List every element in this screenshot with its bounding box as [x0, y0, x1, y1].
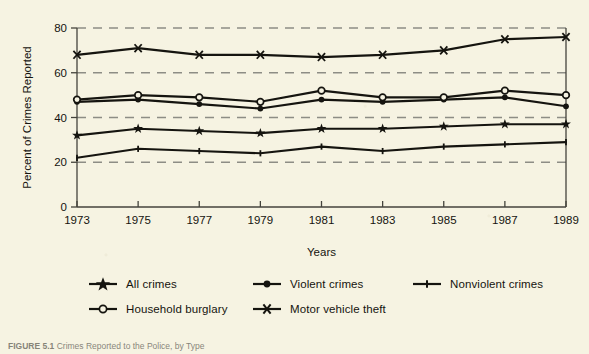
- figure-caption-label: FIGURE 5.1: [8, 341, 54, 351]
- x-axis-title: Years: [307, 246, 336, 258]
- figure-page: 197319751977197919811983198519871989 020…: [0, 0, 589, 354]
- open-circle-marker: [135, 92, 142, 99]
- filled-circle-marker: [196, 101, 202, 107]
- figure-caption: FIGURE 5.1 Crimes Reported to the Police…: [8, 341, 583, 354]
- data-series-group: [72, 33, 571, 161]
- star-marker: [439, 121, 449, 130]
- open-circle-marker: [563, 92, 570, 99]
- y-tick-label-40: 40: [54, 112, 67, 124]
- small-plus-marker-icon: [412, 276, 442, 292]
- legend-label-nonviolent-crimes: Nonviolent crimes: [450, 278, 543, 291]
- x-cross-marker-icon: [252, 301, 282, 317]
- series-all-crimes: [72, 119, 571, 140]
- legend-row-1: All crimes Violent crimes: [0, 272, 589, 296]
- filled-circle-marker: [257, 106, 263, 112]
- filled-circle-marker: [502, 94, 508, 100]
- x-tick-label-1977: 1977: [186, 214, 212, 226]
- star-marker: [194, 126, 204, 135]
- x-tick-label-1989: 1989: [553, 214, 579, 226]
- series-line: [77, 37, 566, 57]
- legend-row-2: Household burglary Motor vehicle theft: [0, 297, 589, 321]
- series-violent-crimes: [74, 94, 569, 111]
- legend-item-motor-vehicle-theft[interactable]: Motor vehicle theft: [252, 297, 386, 321]
- chart-legend: All crimes Violent crimes: [0, 272, 589, 328]
- y-axis-title: Percent of Crimes Reported: [21, 46, 33, 189]
- star-marker: [378, 123, 388, 132]
- open-circle-marker: [196, 94, 203, 101]
- legend-item-household-burglary[interactable]: Household burglary: [88, 297, 228, 321]
- legend-label-household-burglary: Household burglary: [126, 303, 228, 316]
- open-circle-marker: [440, 94, 447, 101]
- y-tick-label-80: 80: [54, 22, 67, 34]
- x-tick-marks-group: [77, 201, 566, 207]
- star-marker-icon: [88, 276, 118, 292]
- y-tick-label-60: 60: [54, 67, 67, 79]
- star-marker: [255, 128, 265, 137]
- x-tick-label-1975: 1975: [125, 214, 151, 226]
- filled-circle-marker-icon: [252, 276, 282, 292]
- y-tick-label-20: 20: [54, 156, 67, 168]
- open-circle-marker-icon: [88, 301, 118, 317]
- series-nonviolent-crimes: [77, 139, 566, 161]
- y-tick-label-0: 0: [61, 201, 67, 213]
- open-circle-marker: [502, 87, 509, 94]
- x-tick-labels-group: 197319751977197919811983198519871989: [64, 214, 579, 226]
- series-motor-vehicle-theft: [73, 33, 569, 61]
- legend-label-all-crimes: All crimes: [126, 278, 177, 291]
- x-tick-label-1987: 1987: [492, 214, 518, 226]
- figure-caption-body: Crimes Reported to the Police, by Type: [57, 341, 205, 351]
- open-circle-marker: [257, 99, 264, 106]
- x-tick-label-1985: 1985: [431, 214, 457, 226]
- x-tick-label-1973: 1973: [64, 214, 90, 226]
- legend-item-all-crimes[interactable]: All crimes: [88, 272, 177, 296]
- open-circle-marker: [74, 96, 81, 103]
- x-tick-label-1983: 1983: [370, 214, 396, 226]
- legend-item-violent-crimes[interactable]: Violent crimes: [252, 272, 363, 296]
- star-marker: [133, 123, 143, 132]
- legend-label-motor-vehicle-theft: Motor vehicle theft: [290, 303, 386, 316]
- open-circle-marker: [318, 87, 325, 94]
- filled-circle-marker: [563, 103, 569, 109]
- star-marker: [317, 123, 327, 132]
- filled-circle-marker: [319, 97, 325, 103]
- legend-label-violent-crimes: Violent crimes: [290, 278, 363, 291]
- chart-plot-area: 197319751977197919811983198519871989 020…: [0, 0, 589, 270]
- x-tick-label-1979: 1979: [248, 214, 274, 226]
- legend-item-nonviolent-crimes[interactable]: Nonviolent crimes: [412, 272, 543, 296]
- line-chart: 197319751977197919811983198519871989 020…: [0, 0, 589, 270]
- star-marker: [500, 119, 510, 128]
- x-tick-label-1981: 1981: [309, 214, 335, 226]
- y-tick-labels-group: 020406080: [54, 22, 67, 213]
- open-circle-marker: [379, 94, 386, 101]
